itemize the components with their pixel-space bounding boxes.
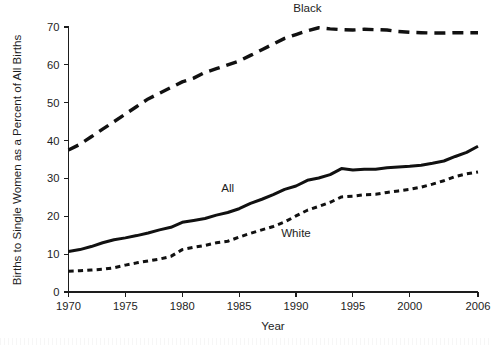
x-tick-label-1980: 1980 [170, 300, 195, 312]
x-tick-label-2006: 2006 [466, 300, 491, 312]
y-tick-label-20: 20 [47, 210, 59, 222]
x-tick-label-1985: 1985 [227, 300, 252, 312]
y-tick-label-10: 10 [47, 248, 59, 260]
chart-axes [69, 27, 479, 292]
chart-series-group [69, 28, 479, 271]
chart-series-labels: BlackAllWhite [221, 1, 321, 239]
y-axis-tick-labels: 010203040506070 [47, 21, 59, 298]
y-tick-label-40: 40 [47, 135, 59, 147]
series-label-black: Black [293, 1, 322, 14]
y-axis-ticks [64, 27, 69, 292]
series-label-all: All [221, 181, 234, 194]
y-tick-label-30: 30 [47, 172, 59, 184]
x-axis-ticks [69, 292, 479, 297]
x-tick-label-1975: 1975 [113, 300, 138, 312]
series-line-all [69, 146, 479, 251]
y-tick-label-60: 60 [47, 59, 59, 71]
series-line-black [69, 28, 479, 150]
y-tick-label-0: 0 [53, 286, 59, 298]
y-tick-label-50: 50 [47, 97, 59, 109]
y-tick-label-70: 70 [47, 21, 59, 33]
x-tick-label-2000: 2000 [397, 300, 422, 312]
series-label-white: White [281, 226, 311, 239]
x-axis-title: Year [261, 319, 285, 332]
x-axis-tick-labels: 19701975198019851990199520002006 [56, 300, 490, 312]
x-tick-label-1995: 1995 [340, 300, 365, 312]
x-tick-label-1970: 1970 [56, 300, 81, 312]
line-chart-plot: 010203040506070 197019751980198519901995… [0, 0, 492, 345]
series-line-white [69, 172, 479, 271]
x-tick-label-1990: 1990 [284, 300, 309, 312]
chart-figure: 010203040506070 197019751980198519901995… [0, 0, 492, 345]
y-axis-title: Births to Single Women as a Percent of A… [10, 35, 23, 286]
